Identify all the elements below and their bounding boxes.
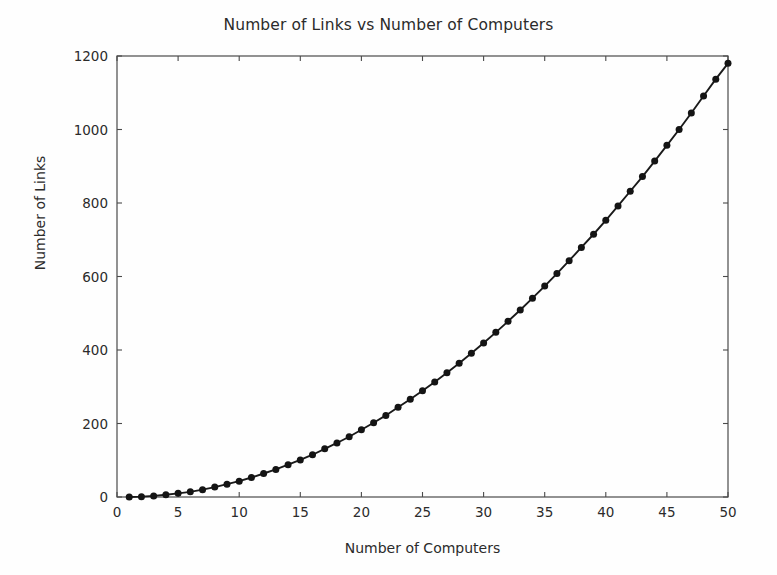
data-point-marker <box>468 350 475 357</box>
data-point-marker <box>492 329 499 336</box>
data-point-marker <box>541 283 548 290</box>
data-point-marker <box>688 109 695 116</box>
data-point-marker <box>712 76 719 83</box>
data-point-marker <box>456 360 463 367</box>
y-tick-label: 1200 <box>74 48 108 64</box>
data-point-marker <box>529 295 536 302</box>
data-point-marker <box>553 270 560 277</box>
x-tick-label: 15 <box>292 504 309 520</box>
data-point-marker <box>126 494 133 501</box>
x-tick-label: 0 <box>113 504 122 520</box>
chart-plot-area: 0510152025303540455002004006008001000120… <box>0 0 777 575</box>
data-point-marker <box>309 451 316 458</box>
data-point-marker <box>651 158 658 165</box>
y-tick-label: 400 <box>82 342 108 358</box>
data-point-marker <box>248 474 255 481</box>
data-point-marker <box>297 456 304 463</box>
data-point-marker <box>419 387 426 394</box>
data-point-marker <box>223 481 230 488</box>
data-point-marker <box>175 490 182 497</box>
data-point-marker <box>627 188 634 195</box>
data-point-marker <box>370 419 377 426</box>
tick-label-group: 0510152025303540455002004006008001000120… <box>74 48 737 520</box>
data-series-links <box>126 60 732 501</box>
data-point-marker <box>162 491 169 498</box>
data-point-marker <box>321 445 328 452</box>
data-point-marker <box>443 369 450 376</box>
data-point-marker <box>505 318 512 325</box>
data-point-marker <box>725 60 732 67</box>
data-point-marker <box>285 461 292 468</box>
data-point-marker <box>578 244 585 251</box>
data-point-marker <box>407 396 414 403</box>
data-point-marker <box>236 478 243 485</box>
data-point-marker <box>615 202 622 209</box>
x-tick-label: 45 <box>658 504 675 520</box>
data-point-marker <box>211 484 218 491</box>
data-point-marker <box>431 378 438 385</box>
x-tick-label: 5 <box>174 504 183 520</box>
x-tick-label: 10 <box>231 504 248 520</box>
y-tick-label: 800 <box>82 195 108 211</box>
y-tick-label: 0 <box>99 489 108 505</box>
data-point-marker <box>382 412 389 419</box>
data-point-marker <box>358 426 365 433</box>
data-point-marker <box>602 217 609 224</box>
data-point-marker <box>639 173 646 180</box>
data-point-marker <box>663 142 670 149</box>
x-tick-label: 35 <box>536 504 553 520</box>
x-tick-label: 25 <box>414 504 431 520</box>
x-tick-label: 30 <box>475 504 492 520</box>
data-point-marker <box>480 340 487 347</box>
y-tick-label: 1000 <box>74 122 108 138</box>
data-point-marker <box>590 231 597 238</box>
x-tick-label: 40 <box>597 504 614 520</box>
series-line <box>129 63 728 497</box>
data-point-marker <box>700 93 707 100</box>
x-tick-label: 20 <box>353 504 370 520</box>
data-point-marker <box>566 257 573 264</box>
axes-group <box>117 56 728 497</box>
y-axis-label: Number of Links <box>32 113 48 313</box>
y-tick-label: 200 <box>82 416 108 432</box>
data-point-marker <box>346 433 353 440</box>
x-axis-label: Number of Computers <box>117 540 728 556</box>
data-point-marker <box>260 470 267 477</box>
x-tick-label: 50 <box>719 504 736 520</box>
data-point-marker <box>138 493 145 500</box>
data-point-marker <box>150 492 157 499</box>
data-point-marker <box>333 439 340 446</box>
data-point-marker <box>187 488 194 495</box>
data-point-marker <box>517 306 524 313</box>
chart-figure: Number of Links vs Number of Computers 0… <box>0 0 777 575</box>
data-point-marker <box>272 466 279 473</box>
data-point-marker <box>676 126 683 133</box>
y-tick-label: 600 <box>82 269 108 285</box>
data-point-marker <box>199 486 206 493</box>
data-point-marker <box>395 404 402 411</box>
